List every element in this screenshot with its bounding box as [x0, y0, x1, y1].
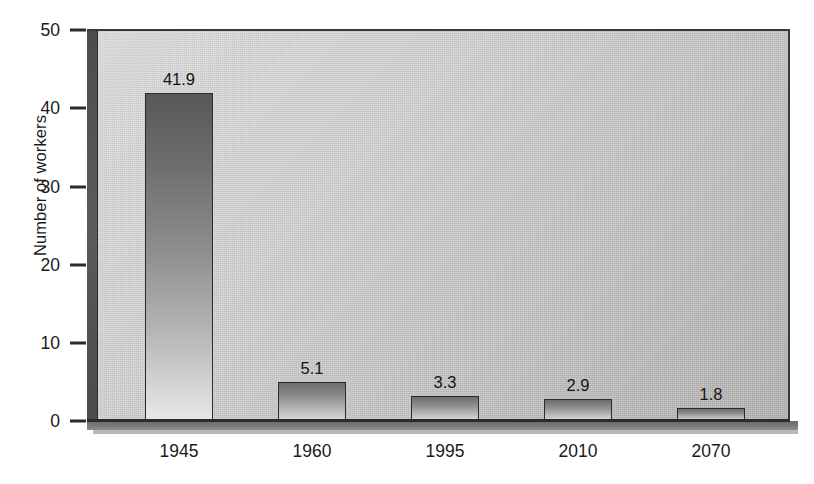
bar-value-label-2010: 2.9 — [567, 376, 590, 395]
bar-1960[interactable]: 5.1 — [278, 382, 346, 422]
x-tick-label-1945: 1945 — [160, 441, 199, 462]
bar-value-label-1995: 3.3 — [434, 373, 457, 392]
x-tick-label-2070: 2070 — [692, 441, 731, 462]
bar-series: 41.9 5.1 3.3 2.9 1.8 — [0, 0, 814, 484]
bar-value-label-1945: 41.9 — [163, 70, 195, 89]
x-tick-label-1960: 1960 — [293, 441, 332, 462]
x-axis-baseline — [87, 419, 790, 422]
x-tick-label-1995: 1995 — [426, 441, 465, 462]
x-tick-label-2010: 2010 — [559, 441, 598, 462]
bar-1945[interactable]: 41.9 — [145, 93, 213, 422]
bar-value-label-1960: 5.1 — [301, 359, 324, 378]
bar-chart-figure: Number of workers 50 40 30 20 10 0 41.9 … — [0, 0, 814, 484]
bar-value-label-2070: 1.8 — [700, 385, 723, 404]
